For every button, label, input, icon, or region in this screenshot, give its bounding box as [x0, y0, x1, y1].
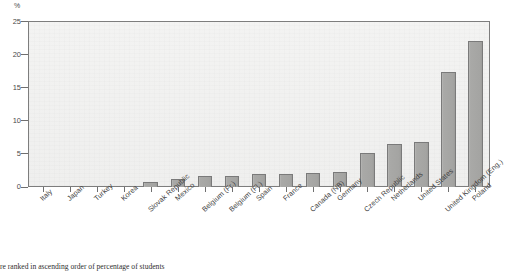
x-axis-tick: [448, 187, 449, 192]
x-axis-tick: [259, 187, 260, 192]
y-axis-tick: [21, 87, 28, 88]
y-axis-tick: [21, 21, 28, 22]
x-axis-category-label: Japan: [65, 183, 86, 203]
y-axis-tick: [21, 153, 28, 154]
x-axis-category-label: United Kingdom (Eng.): [443, 157, 505, 214]
x-axis-category-label: Turkey: [92, 181, 115, 203]
x-axis-tick: [43, 187, 44, 192]
x-axis-category-label: Korea: [119, 183, 140, 203]
x-axis-category-label: United States: [416, 166, 455, 202]
x-axis-tick: [124, 187, 125, 192]
x-axis-tick: [475, 187, 476, 192]
x-axis-tick: [367, 187, 368, 192]
x-axis-tick: [286, 187, 287, 192]
y-axis-tick: [21, 187, 28, 188]
x-axis-tick: [340, 187, 341, 192]
x-axis-tick: [178, 187, 179, 192]
x-axis-tick: [97, 187, 98, 192]
x-axis-category-label: France: [281, 181, 304, 203]
x-axis-tick: [70, 187, 71, 192]
x-axis-tick: [421, 187, 422, 192]
x-axis-tick: [232, 187, 233, 192]
footnote-text: re ranked in ascending order of percenta…: [0, 262, 164, 271]
x-axis-tick: [394, 187, 395, 192]
y-axis-tick: [21, 120, 28, 121]
x-axis-tick: [205, 187, 206, 192]
x-axis-tick: [313, 187, 314, 192]
x-axis-tick: [151, 187, 152, 192]
y-axis-tick: [21, 54, 28, 55]
x-axis-category-label: Italy: [38, 187, 54, 203]
